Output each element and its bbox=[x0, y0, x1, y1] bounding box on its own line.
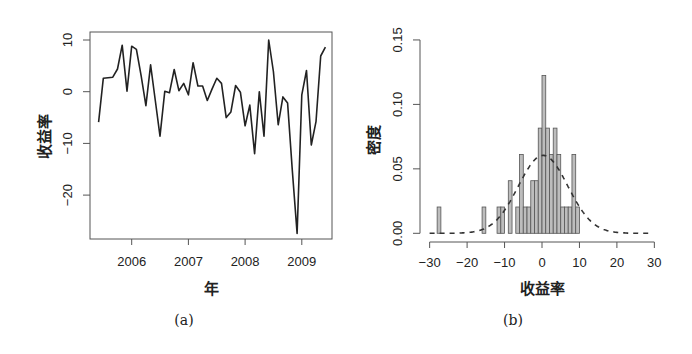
histogram-bar bbox=[546, 128, 550, 233]
histogram-bar bbox=[549, 154, 553, 233]
y-tick-label: 10 bbox=[60, 33, 75, 47]
histogram-bar bbox=[523, 207, 527, 233]
histogram-bar bbox=[564, 207, 568, 233]
caption-b: (b) bbox=[503, 312, 523, 328]
x-tick-label: 2008 bbox=[231, 254, 260, 269]
y-tick-label: −10 bbox=[60, 132, 75, 154]
x-tick-label: 30 bbox=[647, 255, 661, 270]
histogram-bar bbox=[508, 181, 512, 234]
x-tick-label: 20 bbox=[610, 255, 624, 270]
histogram-bar bbox=[535, 181, 539, 234]
y-tick-label: −20 bbox=[60, 184, 75, 206]
y-axis-label-b: 密度 bbox=[365, 124, 383, 155]
x-axis-b: −30−20−100102030 bbox=[419, 242, 662, 270]
x-axis-label-a: 年 bbox=[204, 280, 219, 298]
caption-a: (a) bbox=[174, 312, 193, 328]
y-tick-label: 0.05 bbox=[390, 156, 405, 181]
x-tick-label: −20 bbox=[456, 255, 478, 270]
histogram-bar bbox=[542, 76, 546, 234]
histogram-bar bbox=[561, 207, 565, 233]
panel-a-line-chart: 100−10−20 2006200720082009 收益率 年 (a) bbox=[36, 32, 333, 328]
histogram-bar bbox=[437, 207, 441, 233]
histogram-bar bbox=[576, 207, 580, 233]
y-tick-label: 0.15 bbox=[390, 27, 405, 52]
y-axis-label-a: 收益率 bbox=[36, 114, 54, 159]
histogram-bar bbox=[516, 207, 520, 233]
x-tick-label: 10 bbox=[572, 255, 586, 270]
histogram-bar bbox=[538, 128, 542, 233]
return-series-line bbox=[99, 40, 326, 233]
x-tick-label: 0 bbox=[538, 255, 545, 270]
histogram-bars bbox=[437, 76, 579, 234]
y-axis-b: 0.000.050.100.15 bbox=[390, 27, 420, 246]
y-tick-label: 0.00 bbox=[390, 221, 405, 246]
x-tick-label: −30 bbox=[419, 255, 441, 270]
x-tick-label: −10 bbox=[494, 255, 516, 270]
y-tick-label: 0 bbox=[60, 88, 75, 95]
y-axis-ticks-a: 100−10−20 bbox=[60, 33, 90, 206]
figure: 100−10−20 2006200720082009 收益率 年 (a) 0.0… bbox=[0, 0, 692, 354]
histogram-bar bbox=[520, 154, 524, 233]
panel-b-histogram: 0.000.050.100.15 −30−20−100102030 密度 收益率… bbox=[365, 27, 662, 328]
x-tick-label: 2006 bbox=[117, 254, 146, 269]
histogram-bar bbox=[531, 181, 535, 234]
x-tick-label: 2009 bbox=[287, 254, 316, 269]
x-axis-label-b: 收益率 bbox=[520, 280, 565, 298]
x-axis-ticks-a: 2006200720082009 bbox=[117, 239, 316, 269]
histogram-bar bbox=[553, 128, 557, 233]
histogram-bar bbox=[527, 207, 531, 233]
histogram-bar bbox=[568, 207, 572, 233]
x-tick-label: 2007 bbox=[174, 254, 203, 269]
y-tick-label: 0.10 bbox=[390, 92, 405, 117]
